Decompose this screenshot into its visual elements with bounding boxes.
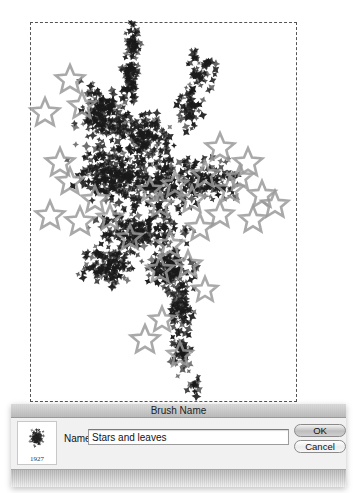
- dialog-footer: [11, 469, 346, 487]
- dialog-body: 1927 Name: OK Cancel: [11, 418, 346, 470]
- brush-thumbnail: 1927: [17, 421, 57, 465]
- brush-thumbnail-number: 1927: [18, 455, 56, 463]
- ok-button[interactable]: OK: [294, 424, 346, 437]
- dialog-title: Brush Name: [151, 405, 207, 416]
- dialog-title-bar[interactable]: Brush Name: [11, 404, 346, 418]
- star-brush-strokes: [31, 65, 289, 366]
- brush-thumbnail-icon: [20, 423, 54, 455]
- brush-name-input[interactable]: [88, 429, 289, 445]
- brush-name-dialog: Brush Name 1927 Name: OK Cancel: [11, 404, 346, 487]
- cancel-button[interactable]: Cancel: [294, 440, 346, 453]
